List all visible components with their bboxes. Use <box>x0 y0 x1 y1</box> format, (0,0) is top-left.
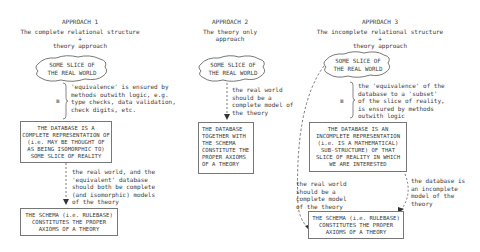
approach-1-subtitle-2: theory approach <box>10 42 150 50</box>
approach-3-heading: APPROACH 3 <box>330 18 430 26</box>
approach-2-heading: APPROACH 2 <box>190 18 270 26</box>
approach-1-schema-box: THE SCHEMA (i.e. RULEBASE) CONSTITUTES T… <box>20 208 118 236</box>
approach-1-equivalence-note: 'equivalence' is ensured by methods outw… <box>71 83 176 113</box>
approach-1-equivalence-symbol: ≡ <box>56 97 60 105</box>
approach-3-real-world-note: the real world should be a complete mode… <box>296 180 347 210</box>
approach-1-cloud-label: SOME SLICE OF THE REAL WORLD <box>40 62 104 77</box>
approach-3-cloud-label: SOME SLICE OF THE REAL WORLD <box>327 58 389 73</box>
approach-2-cloud-label: SOME SLICE OF THE REAL WORLD <box>202 62 264 77</box>
approach-3-subtitle-2: theory approach <box>305 42 455 50</box>
approach-3-equivalence-note: the 'equivalence' of the database to a '… <box>358 82 445 120</box>
approach-2-model-note: the real world should be a complete mode… <box>232 86 293 116</box>
approach-1-database-box: THE DATABASE IS A COMPLETE REPRESENTATIO… <box>20 121 112 163</box>
approach-2-database-box: THE DATABASE TOGETHER WITH THE SCHEMA CO… <box>198 122 254 174</box>
approach-3-schema-box: THE SCHEMA (i.e. RULEBASE) CONSTITUTES T… <box>308 211 404 239</box>
approach-1-heading: APPROACH 1 <box>30 18 130 26</box>
approach-3-equivalence-symbol: ≡ <box>340 97 344 105</box>
approach-1-model-note: the real world, and the 'equivalent' dat… <box>72 168 155 206</box>
approach-3-database-note: the database is an incomplete model of t… <box>411 177 465 207</box>
approach-2-subtitle-2: approach <box>190 35 270 43</box>
approach-3-database-box: THE DATABASE IS AN INCOMPLETE REPRESENTA… <box>309 122 407 172</box>
